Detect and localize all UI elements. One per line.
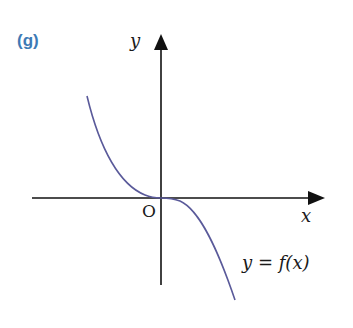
y-axis-label: y [130, 30, 140, 51]
origin-label: O [142, 201, 156, 221]
part-label: (g) [17, 31, 39, 51]
graph-canvas [0, 0, 353, 328]
curve-label: y = f(x) [242, 252, 310, 273]
y-axis-arrow-icon [154, 34, 168, 50]
x-axis-label: x [301, 205, 311, 226]
x-axis-arrow-icon [308, 191, 325, 205]
